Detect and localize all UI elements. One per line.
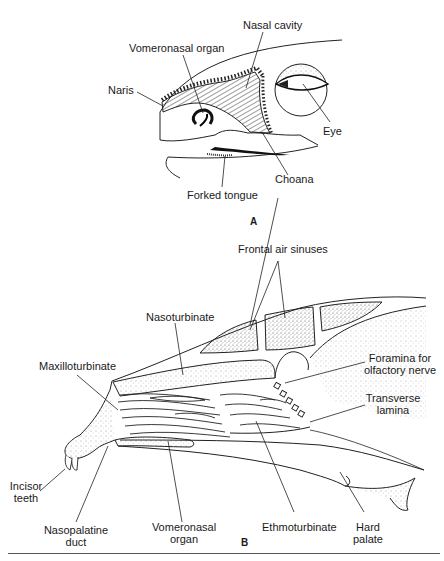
label-transverse-lamina: Transverse lamina bbox=[360, 392, 426, 416]
label-forked-tongue: Forked tongue bbox=[187, 189, 258, 201]
label-ethmoturbinate: Ethmoturbinate bbox=[262, 521, 337, 533]
label-maxilloturbinate: Maxilloturbinate bbox=[39, 360, 116, 372]
label-naris: Naris bbox=[108, 84, 134, 96]
label-foramina-line2: olfactory nerve bbox=[360, 364, 440, 376]
label-nasopalatine-line1: Nasopalatine bbox=[40, 524, 112, 536]
label-vomeronasal-line2: organ bbox=[148, 533, 220, 545]
label-frontal-air-sinuses: Frontal air sinuses bbox=[238, 243, 328, 255]
label-vomeronasal-line1: Vomeronasal bbox=[148, 521, 220, 533]
label-vomeronasal-organ-b: Vomeronasal organ bbox=[148, 521, 220, 545]
label-nasopalatine-line2: duct bbox=[40, 536, 112, 548]
label-eye: Eye bbox=[323, 125, 342, 137]
label-transverse-line1: Transverse bbox=[360, 392, 426, 404]
label-hard-palate-line2: palate bbox=[348, 533, 388, 545]
label-foramina-line1: Foramina for bbox=[360, 352, 440, 364]
label-nasoturbinate: Nasoturbinate bbox=[146, 311, 215, 323]
panel-a-drawing bbox=[0, 0, 444, 561]
label-incisor-line2: teeth bbox=[4, 492, 48, 504]
label-choana: Choana bbox=[275, 173, 314, 185]
anatomy-figure: Nasal cavity Vomeronasal organ Naris Eye… bbox=[0, 0, 444, 561]
label-vomeronasal-organ-a: Vomeronasal organ bbox=[129, 42, 224, 54]
label-incisor-teeth: Incisor teeth bbox=[4, 480, 48, 504]
label-hard-palate: Hard palate bbox=[348, 521, 388, 545]
panel-b-letter: B bbox=[241, 537, 248, 548]
label-foramina-olfactory-nerve: Foramina for olfactory nerve bbox=[360, 352, 440, 376]
label-nasal-cavity: Nasal cavity bbox=[243, 19, 302, 31]
label-transverse-line2: lamina bbox=[360, 404, 426, 416]
label-hard-palate-line1: Hard bbox=[348, 521, 388, 533]
bottom-rule-divider bbox=[8, 553, 440, 554]
label-incisor-line1: Incisor bbox=[4, 480, 48, 492]
label-nasopalatine-duct: Nasopalatine duct bbox=[40, 524, 112, 548]
panel-a-letter: A bbox=[250, 216, 257, 227]
